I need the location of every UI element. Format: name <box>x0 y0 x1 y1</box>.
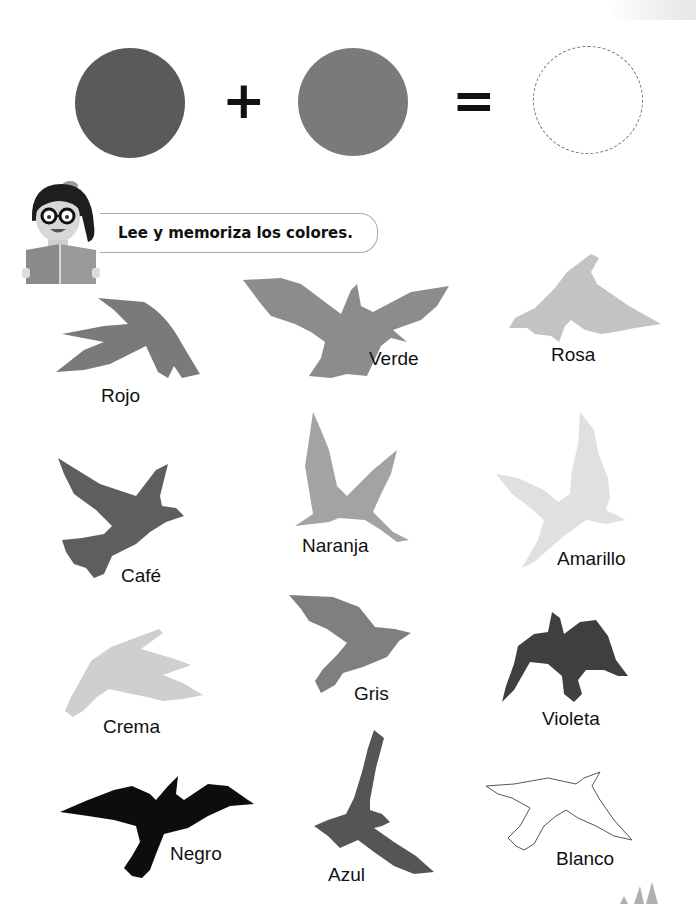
label-crema: Crema <box>103 716 160 738</box>
bird-cafe <box>56 456 186 578</box>
label-gris: Gris <box>354 683 389 705</box>
bird-blanco <box>484 768 634 858</box>
color-circle-1 <box>75 48 185 158</box>
result-circle-empty[interactable] <box>533 46 643 154</box>
equals-sign: = <box>452 70 496 130</box>
label-verde: Verde <box>369 348 419 370</box>
bird-rosa <box>505 252 665 342</box>
girl-reading-illustration <box>22 176 102 286</box>
bird-verde <box>241 276 456 381</box>
bird-gris <box>287 593 412 695</box>
bird-azul <box>310 728 440 878</box>
bird-amarillo <box>494 410 634 570</box>
bird-violeta <box>500 610 630 702</box>
page-corner-decoration <box>606 0 696 20</box>
bird-naranja <box>293 410 413 545</box>
bird-crema <box>63 627 208 719</box>
label-violeta: Violeta <box>542 708 600 730</box>
label-naranja: Naranja <box>302 535 369 557</box>
decoration-bottom-right <box>612 880 696 904</box>
instruction-text: Lee y memoriza los colores. <box>118 224 353 242</box>
label-amarillo: Amarillo <box>557 548 626 570</box>
color-circle-2 <box>298 48 408 156</box>
label-cafe: Café <box>121 565 161 587</box>
label-rosa: Rosa <box>551 344 595 366</box>
bird-negro <box>58 772 258 880</box>
plus-sign: + <box>222 70 266 130</box>
label-blanco: Blanco <box>556 848 614 870</box>
label-rojo: Rojo <box>101 385 140 407</box>
bird-rojo <box>54 294 204 384</box>
label-azul: Azul <box>328 864 365 886</box>
label-negro: Negro <box>170 843 222 865</box>
instruction-bubble: Lee y memoriza los colores. <box>100 213 378 253</box>
